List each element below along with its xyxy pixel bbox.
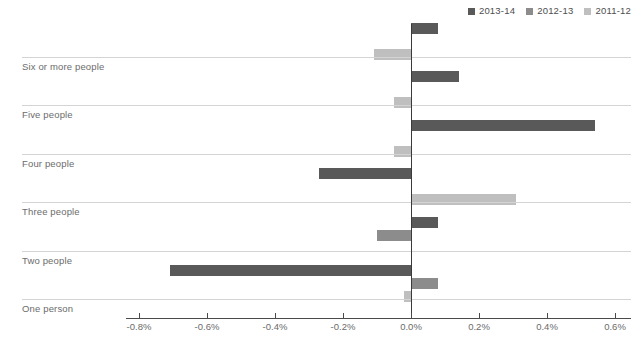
zero-axis-line xyxy=(411,24,412,318)
bar xyxy=(377,230,411,241)
category-label: One person xyxy=(22,304,73,314)
legend-item[interactable]: 2011-12 xyxy=(584,6,631,16)
category-label: Four people xyxy=(22,159,74,169)
category-label: Three people xyxy=(22,207,80,217)
x-tick-mark xyxy=(547,313,548,319)
x-tick-mark xyxy=(139,313,140,319)
bar xyxy=(411,217,438,228)
legend-swatch-icon xyxy=(468,8,475,15)
bar-group: One person xyxy=(0,267,639,316)
bar xyxy=(411,120,595,131)
category-label: Six or more people xyxy=(22,62,104,72)
bar-group: Six or more people xyxy=(0,24,639,73)
x-tick-label: -0.4% xyxy=(263,322,288,332)
x-tick-label: 0.2% xyxy=(468,322,490,332)
bar-group: Two people xyxy=(0,218,639,267)
legend-label: 2011-12 xyxy=(595,6,631,16)
bar xyxy=(411,71,459,82)
x-tick-mark xyxy=(275,313,276,319)
bar xyxy=(394,97,411,108)
legend-swatch-icon xyxy=(584,8,591,15)
bar-chart: 2013-142012-132011-12 Six or more people… xyxy=(0,0,639,347)
x-tick-mark xyxy=(479,313,480,319)
x-tick-label: 0.6% xyxy=(604,322,626,332)
category-separator xyxy=(22,57,631,58)
bar xyxy=(374,49,411,60)
bar xyxy=(394,146,411,157)
x-tick-mark xyxy=(207,313,208,319)
category-separator xyxy=(22,105,631,106)
category-separator xyxy=(22,202,631,203)
x-tick-label: -0.2% xyxy=(331,322,356,332)
x-tick-label: -0.6% xyxy=(195,322,220,332)
category-separator xyxy=(22,154,631,155)
x-tick-label: 0.4% xyxy=(536,322,558,332)
bar-group: Five people xyxy=(0,73,639,122)
legend-label: 2012-13 xyxy=(537,6,573,16)
x-tick-mark xyxy=(615,313,616,319)
bar xyxy=(411,194,516,205)
category-separator xyxy=(22,251,631,252)
bar xyxy=(170,265,411,276)
bar xyxy=(411,23,438,34)
x-tick-label: -0.8% xyxy=(127,322,152,332)
legend-swatch-icon xyxy=(526,8,533,15)
legend-item[interactable]: 2012-13 xyxy=(526,6,573,16)
x-tick-mark xyxy=(411,313,412,319)
bar xyxy=(319,168,411,179)
chart-legend: 2013-142012-132011-12 xyxy=(468,4,631,18)
bar-group: Four people xyxy=(0,121,639,170)
legend-item[interactable]: 2013-14 xyxy=(468,6,515,16)
category-label: Two people xyxy=(22,256,72,266)
legend-label: 2013-14 xyxy=(479,6,515,16)
bar-group: Three people xyxy=(0,170,639,219)
plot-area: Six or more peopleFive peopleFour people… xyxy=(0,24,639,315)
x-tick-mark xyxy=(343,313,344,319)
category-separator xyxy=(22,299,631,300)
category-label: Five people xyxy=(22,110,73,120)
x-tick-label: 0.0% xyxy=(400,322,422,332)
bar xyxy=(411,278,438,289)
x-axis-line xyxy=(126,318,631,319)
bar xyxy=(404,291,411,302)
